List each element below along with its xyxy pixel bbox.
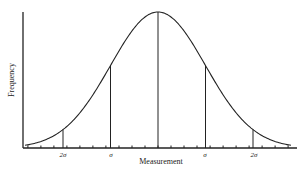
x-axis-label: Measurement	[139, 157, 183, 166]
tick-label-minus-sigma: σ	[109, 151, 113, 159]
tick-label-plus-sigma: σ	[203, 151, 207, 159]
tick-label-plus-2sigma: 2σ	[251, 151, 259, 159]
normal-distribution-diagram: 2σ σ σ 2σ Measurement Frequency	[0, 0, 306, 171]
y-axis-label: Frequency	[7, 63, 16, 97]
tick-label-minus-2sigma: 2σ	[60, 151, 68, 159]
sigma-markers	[63, 12, 253, 148]
